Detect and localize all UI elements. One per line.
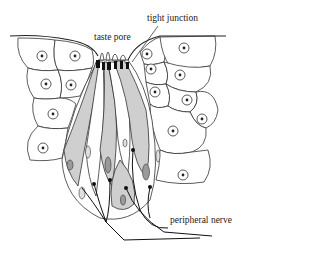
peripheral-nerve-label: peripheral nerve (170, 216, 232, 226)
taste-pore-label: taste pore (94, 33, 131, 43)
tight-junction-label: tight junction (147, 14, 198, 24)
